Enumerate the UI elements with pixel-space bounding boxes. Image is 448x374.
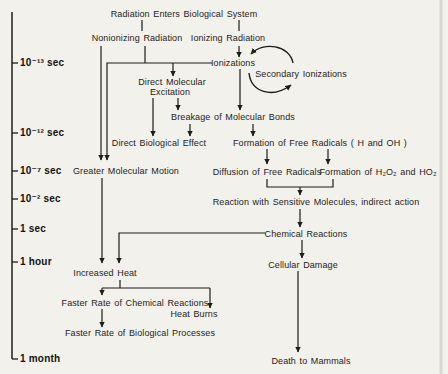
node-greater-molecular-motion: Greater Molecular Motion bbox=[73, 166, 179, 176]
node-formation-peroxides: Formation of H₂O₂ and HO₂ bbox=[319, 167, 436, 177]
node-chemical-reactions: Chemical Reactions bbox=[265, 229, 348, 239]
node-faster-chemical-reactions: Faster Rate of Chemical Reactions bbox=[62, 298, 209, 308]
timeline-label-1e-13: 10⁻¹³ sec bbox=[20, 57, 65, 68]
node-death-to-mammals: Death to Mammals bbox=[271, 356, 351, 366]
node-breakage-molecular-bonds: Breakage of Molecular Bonds bbox=[171, 112, 295, 122]
edge-merge-bracket bbox=[267, 179, 333, 187]
edge-chemical-to-increased-heat bbox=[119, 233, 265, 263]
scanned-figure-page: 10⁻¹³ sec 10⁻¹² sec 10⁻⁷ sec 10⁻² sec 1 … bbox=[0, 0, 448, 374]
timeline-label-1e-7: 10⁻⁷ sec bbox=[20, 165, 62, 176]
node-formation-free-radicals: Formation of Free Radicals ( H and OH ) bbox=[233, 138, 407, 148]
node-direct-biological-effect: Direct Biological Effect bbox=[112, 138, 207, 148]
node-heat-burns: Heat Burns bbox=[170, 309, 217, 319]
node-faster-biological-processes: Faster Rate of Biological Processes bbox=[65, 328, 215, 338]
timeline-label-1sec: 1 sec bbox=[20, 223, 46, 234]
timeline-label-1hour: 1 hour bbox=[20, 256, 52, 267]
node-nonionizing-radiation: Nonionizing Radiation bbox=[92, 33, 183, 43]
node-diffusion-free-radicals: Diffusion of Free Radicals bbox=[213, 167, 322, 177]
node-radiation-enters: Radiation Enters Biological System bbox=[111, 9, 257, 19]
timeline-label-1e-12: 10⁻¹² sec bbox=[20, 127, 65, 138]
node-secondary-ionizations: Secondary Ionizations bbox=[255, 69, 347, 79]
radiation-flowchart: 10⁻¹³ sec 10⁻¹² sec 10⁻⁷ sec 10⁻² sec 1 … bbox=[0, 0, 448, 374]
node-cellular-damage: Cellular Damage bbox=[268, 260, 338, 270]
node-ionizations: Ionizations bbox=[211, 58, 256, 68]
node-reaction-sensitive-molecules: Reaction with Sensitive Molecules, indir… bbox=[213, 197, 420, 207]
node-ionizing-radiation: Ionizing Radiation bbox=[191, 33, 265, 43]
loop-secondary-upper-arc bbox=[251, 46, 293, 63]
timeline-axis: 10⁻¹³ sec 10⁻¹² sec 10⁻⁷ sec 10⁻² sec 1 … bbox=[12, 12, 65, 364]
node-increased-heat: Increased Heat bbox=[73, 268, 137, 278]
timeline-label-1e-2: 10⁻² sec bbox=[20, 193, 61, 204]
node-direct-molecular-excitation-line1: Direct Molecular bbox=[138, 77, 206, 87]
timeline-label-1month: 1 month bbox=[20, 353, 60, 364]
node-direct-molecular-excitation-line2: Excitation bbox=[150, 87, 190, 97]
